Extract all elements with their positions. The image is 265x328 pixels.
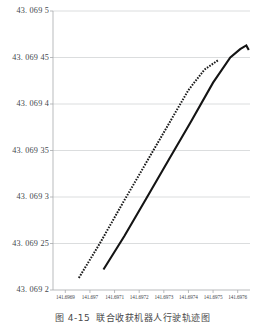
y-axis-tick-label: 43. 069 45 — [1, 53, 49, 62]
y-axis-tick-label: 43. 069 35 — [1, 146, 49, 155]
data-series-group — [79, 45, 249, 278]
figure-caption: 图 4-15联合收获机器人行驶轨迹图 — [0, 311, 265, 324]
caption-number: 图 4-15 — [55, 313, 90, 323]
y-axis-tick-label: 43. 069 5 — [1, 6, 49, 15]
series-line-actual-path — [103, 45, 248, 269]
y-axis-tick-label: 43. 069 2 — [1, 285, 49, 294]
y-axis-tick-label: 43. 069 4 — [1, 99, 49, 108]
series-line-desired-path — [79, 60, 218, 278]
caption-text: 联合收获机器人行驶轨迹图 — [96, 313, 210, 323]
figure-container: 43. 069 243. 069 2543. 069 343. 069 3543… — [0, 0, 265, 328]
gridlines-group — [53, 11, 250, 244]
x-tick-marks-group — [50, 11, 238, 293]
y-axis-tick-label: 43. 069 3 — [1, 192, 49, 201]
x-axis-tick-label: 141.6976 — [223, 294, 253, 301]
y-axis-tick-label: 43. 069 25 — [1, 239, 49, 248]
